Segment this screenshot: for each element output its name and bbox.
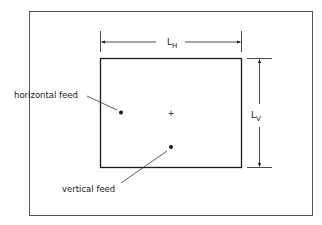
horizontal-feed-leader — [87, 96, 117, 110]
lv-label: LV — [251, 110, 261, 123]
center-marker: + — [167, 108, 174, 118]
horizontal-feed-point — [119, 111, 123, 115]
horizontal-feed-label: horizontal feed — [14, 90, 78, 100]
vertical-feed-label: vertical feed — [62, 184, 115, 194]
patch-diagram: LH LV + horizontal feed vertical feed — [0, 0, 322, 225]
lh-label: LH — [167, 37, 177, 50]
vertical-feed-point — [169, 145, 173, 149]
